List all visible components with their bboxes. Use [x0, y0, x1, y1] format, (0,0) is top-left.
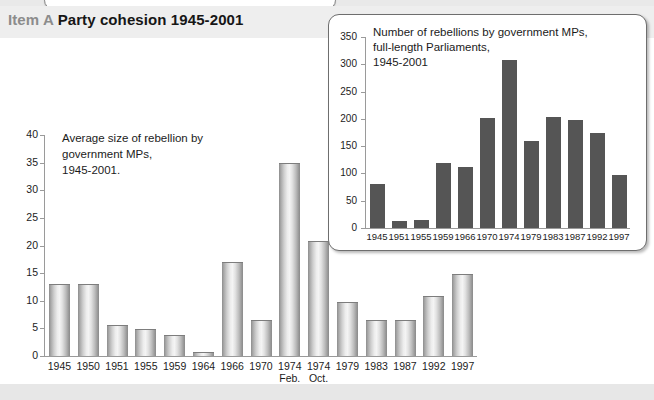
main-bar — [423, 296, 444, 356]
main-y-tick — [40, 301, 44, 302]
main-bar — [107, 325, 128, 356]
inset-bar — [546, 117, 561, 228]
inset-x-tick-label: 1997 — [604, 231, 634, 242]
main-bar — [308, 241, 329, 356]
title-text: Party cohesion 1945-2001 — [58, 11, 244, 28]
inset-y-tick — [361, 37, 365, 38]
inset-plot-area — [366, 37, 630, 228]
main-bar — [279, 163, 300, 356]
main-x-tick-label: 1997 — [443, 360, 483, 372]
inset-y-tick — [361, 92, 365, 93]
main-bar — [164, 335, 185, 356]
inset-bar — [590, 133, 605, 228]
inset-y-tick-label: 250 — [331, 87, 357, 97]
main-bar — [193, 352, 214, 356]
inset-bar — [458, 167, 473, 228]
main-y-tick — [40, 135, 44, 136]
inset-y-tick — [361, 146, 365, 147]
inset-bar — [612, 175, 627, 228]
main-bar — [49, 284, 70, 356]
main-y-tick-label: 5 — [2, 322, 38, 332]
main-bar — [366, 320, 387, 356]
main-y-tick-label: 30 — [2, 184, 38, 194]
main-bar — [78, 284, 99, 356]
main-y-tick-label: 25 — [2, 212, 38, 222]
main-y-tick-label: 35 — [2, 157, 38, 167]
inset-chart-panel: Number of rebellions by government MPs, … — [328, 14, 647, 251]
inset-y-tick — [361, 228, 365, 229]
main-y-tick — [40, 273, 44, 274]
main-x-tick-month: Oct. — [299, 372, 339, 384]
inset-bar — [370, 184, 385, 228]
inset-x-axis-line — [365, 228, 630, 229]
main-y-tick-label: 20 — [2, 240, 38, 250]
main-y-tick — [40, 328, 44, 329]
inset-y-tick — [361, 64, 365, 65]
inset-y-tick-label: 150 — [331, 141, 357, 151]
main-bar — [251, 320, 272, 356]
page-title: Item A Party cohesion 1945-2001 — [8, 11, 243, 28]
inset-y-tick — [361, 119, 365, 120]
main-bar — [395, 320, 416, 356]
main-y-tick-label: 15 — [2, 267, 38, 277]
page-background: Item A Party cohesion 1945-2001 Average … — [0, 0, 654, 400]
inset-y-tick-label: 0 — [331, 223, 357, 233]
main-y-tick-label: 10 — [2, 295, 38, 305]
main-y-tick-label: 0 — [2, 350, 38, 360]
inset-y-tick-label: 200 — [331, 114, 357, 124]
inset-bar — [480, 118, 495, 228]
main-bar — [337, 302, 358, 356]
inset-y-tick-label: 50 — [331, 196, 357, 206]
main-x-tick-year: 1997 — [451, 360, 474, 372]
main-bar — [135, 329, 156, 356]
main-y-tick — [40, 218, 44, 219]
inset-y-tick-label: 100 — [331, 168, 357, 178]
inset-bar — [414, 220, 429, 228]
inset-bar — [568, 120, 583, 228]
main-bar — [222, 262, 243, 356]
main-y-tick-label: 40 — [2, 129, 38, 139]
main-x-axis-line — [44, 356, 477, 357]
inset-y-tick-label: 350 — [331, 32, 357, 42]
item-label: Item A — [8, 11, 53, 28]
inset-y-tick — [361, 201, 365, 202]
inset-bar — [502, 60, 517, 228]
main-y-tick — [40, 246, 44, 247]
main-y-tick — [40, 190, 44, 191]
inset-bar — [436, 163, 451, 228]
inset-bar — [392, 221, 407, 228]
main-y-tick — [40, 356, 44, 357]
main-y-tick — [40, 163, 44, 164]
inset-y-tick — [361, 173, 365, 174]
inset-y-tick-label: 300 — [331, 59, 357, 69]
inset-bar — [524, 141, 539, 228]
main-bar — [452, 274, 473, 356]
